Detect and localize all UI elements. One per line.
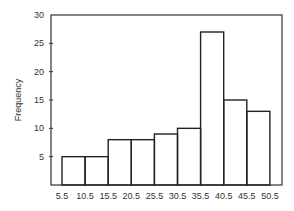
x-tick-label: 35.5 — [192, 191, 210, 201]
y-tick-label: 25 — [34, 38, 44, 48]
bars-group — [62, 32, 270, 185]
x-tick-label: 15.5 — [99, 191, 117, 201]
histogram-bar — [178, 128, 201, 185]
x-tick-label: 25.5 — [146, 191, 164, 201]
x-tick-label: 40.5 — [215, 191, 233, 201]
histogram-bar — [247, 111, 270, 185]
y-axis-ticks: 51015202530 — [34, 10, 53, 162]
x-tick-label: 45.5 — [238, 191, 256, 201]
y-tick-label: 20 — [34, 67, 44, 77]
histogram-bar — [85, 157, 108, 185]
y-tick-label: 30 — [34, 10, 44, 20]
y-tick-label: 10 — [34, 123, 44, 133]
histogram-bar — [108, 140, 131, 185]
y-tick-label: 15 — [34, 95, 44, 105]
histogram-bar — [131, 140, 154, 185]
x-tick-label: 5.5 — [56, 191, 69, 201]
y-tick-label: 5 — [39, 152, 44, 162]
x-tick-label: 10.5 — [76, 191, 94, 201]
histogram-bar — [154, 134, 177, 185]
x-tick-label: 20.5 — [123, 191, 141, 201]
histogram-bar — [224, 100, 247, 185]
histogram-bar — [201, 32, 224, 185]
x-tick-label: 30.5 — [169, 191, 187, 201]
x-axis-ticks: 5.510.515.520.525.530.535.540.545.550.5 — [56, 191, 279, 201]
x-tick-label: 50.5 — [261, 191, 279, 201]
histogram-chart: 51015202530 5.510.515.520.525.530.535.54… — [0, 0, 294, 211]
histogram-bar — [62, 157, 85, 185]
y-axis-label: Frequency — [13, 78, 23, 121]
